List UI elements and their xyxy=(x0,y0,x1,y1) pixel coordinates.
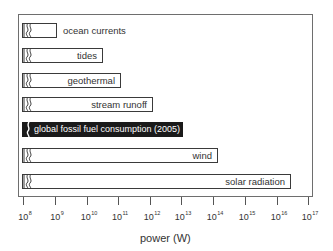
x-tick-label: 1015 xyxy=(239,210,256,222)
x-tick xyxy=(213,197,214,205)
x-tick xyxy=(277,197,278,205)
bar-label: stream runoff xyxy=(91,98,147,111)
x-tick-label: 1016 xyxy=(271,210,288,222)
x-tick-label: 108 xyxy=(18,210,32,222)
bar-tides: tides xyxy=(22,48,103,63)
axis-break-icon xyxy=(23,97,32,112)
bar-label: global fossil fuel consumption (2005) xyxy=(34,123,180,136)
x-tick xyxy=(181,197,182,205)
axis-break-icon xyxy=(23,148,32,163)
bar-stream: stream runoff xyxy=(22,97,153,112)
axis-break-icon xyxy=(23,23,32,38)
bar-label: solar radiation xyxy=(225,175,285,188)
bar-label: ocean currents xyxy=(63,24,126,37)
bar-label: tides xyxy=(77,49,97,62)
axis-break-icon xyxy=(23,174,32,189)
x-tick xyxy=(308,197,309,205)
bar-wind: wind xyxy=(22,148,218,163)
x-tick xyxy=(23,197,24,205)
bar-ocean: ocean currents xyxy=(22,23,57,38)
x-tick xyxy=(245,197,246,205)
x-tick-label: 1012 xyxy=(144,210,161,222)
bar-geothermal: geothermal xyxy=(22,73,121,88)
bar-global: global fossil fuel consumption (2005) xyxy=(22,122,183,137)
x-tick xyxy=(87,197,88,205)
x-tick-label: 1010 xyxy=(81,210,98,222)
x-tick xyxy=(118,197,119,205)
axis-break-icon xyxy=(23,122,32,137)
x-tick-label: 1013 xyxy=(175,210,192,222)
axis-break-icon xyxy=(23,48,32,63)
x-tick-label: 1017 xyxy=(302,210,319,222)
x-axis-label: power (W) xyxy=(140,232,191,244)
x-tick-label: 1011 xyxy=(112,210,128,222)
bar-label: wind xyxy=(192,149,212,162)
bar-solar: solar radiation xyxy=(22,174,291,189)
x-tick xyxy=(55,197,56,205)
axis-break-icon xyxy=(23,73,32,88)
x-tick-label: 1014 xyxy=(207,210,224,222)
bar-label: geothermal xyxy=(67,74,115,87)
x-tick xyxy=(150,197,151,205)
x-tick-label: 109 xyxy=(50,210,64,222)
